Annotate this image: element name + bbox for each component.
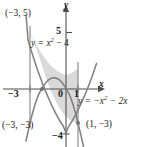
x-tick-label-zero: 0 (58, 89, 63, 99)
equation-upward-tail: − 4 (54, 38, 69, 48)
point-label-bottom-right: (1, −3) (86, 120, 112, 130)
x-tick-label-one: 1 (74, 89, 79, 99)
x-axis-label: x (99, 80, 104, 90)
equation-downward-lead: y = −x (78, 96, 104, 106)
point-label-bottom-left: (−3, −3) (2, 121, 33, 131)
equation-label-upward-parabola: y = x2 − 4 (31, 39, 69, 49)
point-marker-1-neg3 (76, 121, 80, 125)
math-figure: (−3, 5) y = x2 − 4 y = −x2 − 2x (−3, −3)… (0, 0, 145, 147)
point-marker-intersection-left (40, 87, 44, 91)
equation-upward-lead: y = x (31, 38, 51, 48)
equation-downward-tail: − 2x (107, 96, 127, 106)
y-tick-label-neg4: −4 (52, 131, 63, 141)
point-label-top-left: (−3, 5) (5, 9, 31, 19)
x-tick-label-neg3: −3 (8, 89, 19, 99)
y-tick-label-five: 5 (56, 26, 61, 36)
equation-label-downward-parabola: y = −x2 − 2x (78, 97, 127, 107)
y-axis-label: y (64, 1, 68, 11)
